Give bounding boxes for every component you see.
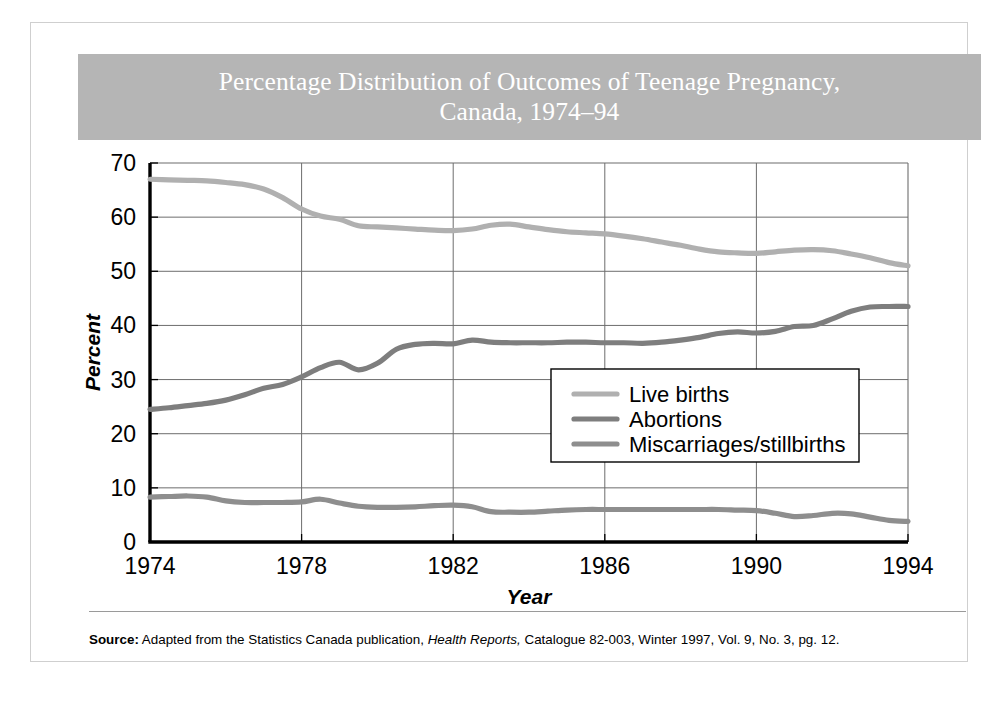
x-axis-tick-label: 1986 [579, 553, 630, 579]
chart-plot-area: 010203040506070197419781982198619901994P… [78, 147, 981, 607]
y-axis-tick-label: 10 [110, 475, 136, 501]
line-chart: 010203040506070197419781982198619901994P… [78, 147, 981, 607]
legend-label: Abortions [629, 407, 722, 432]
x-axis-tick-label: 1982 [428, 553, 479, 579]
legend-label: Miscarriages/stillbirths [629, 432, 845, 457]
chart-title: Percentage Distribution of Outcomes of T… [179, 67, 880, 127]
x-axis-tick-label: 1994 [882, 553, 933, 579]
y-axis-tick-label: 70 [110, 150, 136, 176]
chart-title-banner: Percentage Distribution of Outcomes of T… [78, 54, 981, 140]
figure-container: Percentage Distribution of Outcomes of T… [30, 22, 968, 662]
y-axis-tick-label: 50 [110, 258, 136, 284]
source-text-part2: Catalogue 82-003, Winter 1997, [521, 632, 715, 647]
x-axis-tick-label: 1978 [276, 553, 327, 579]
source-note: Source: Adapted from the Statistics Cana… [89, 611, 969, 651]
y-axis-tick-label: 20 [110, 421, 136, 447]
source-divider [89, 611, 966, 612]
y-axis-tick-label: 0 [123, 529, 136, 555]
legend-label: Live births [629, 382, 729, 407]
source-label: Source: [89, 632, 139, 647]
y-axis-tick-label: 60 [110, 204, 136, 230]
x-axis-tick-label: 1974 [124, 553, 175, 579]
source-text-line2: Vol. 9, No. 3, pg. 12. [718, 632, 839, 647]
data-line-miscarriages-stillbirths [150, 496, 908, 521]
y-axis-title: Percent [81, 313, 104, 391]
source-publication-name: Health Reports, [428, 632, 521, 647]
x-axis-title: Year [507, 585, 554, 607]
data-line-live-births [150, 179, 908, 266]
y-axis-tick-label: 40 [110, 312, 136, 338]
x-axis-tick-label: 1990 [731, 553, 782, 579]
source-text-part1: Adapted from the Statistics Canada publi… [139, 632, 428, 647]
y-axis-tick-label: 30 [110, 367, 136, 393]
